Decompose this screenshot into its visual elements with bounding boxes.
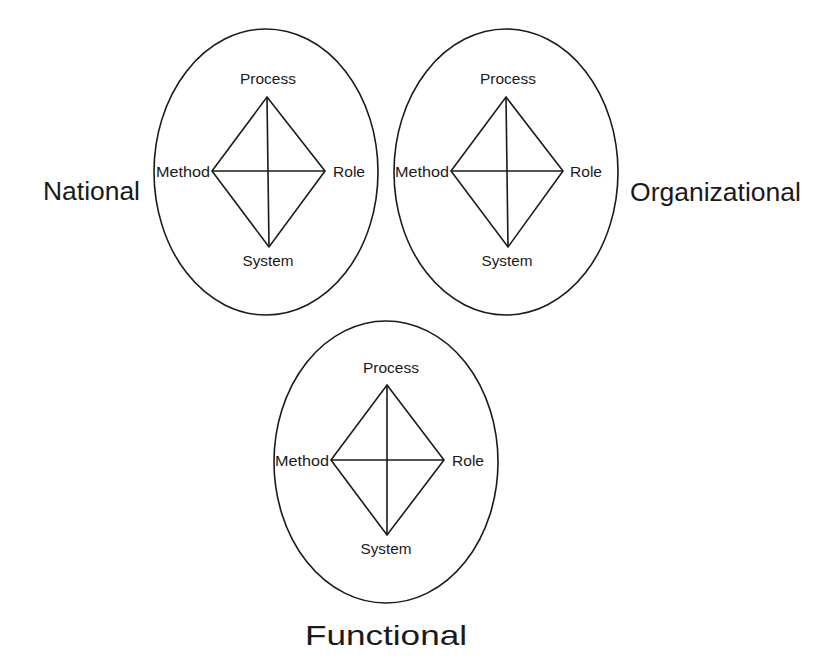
level-label-national: National: [43, 177, 140, 205]
cluster-organizational: Process Method Role System Organizationa…: [394, 29, 801, 315]
node-system: System: [243, 252, 294, 269]
cluster-functional: Process Method Role System Functional: [274, 321, 498, 651]
level-label-organizational: Organizational: [630, 178, 801, 206]
node-process: Process: [363, 359, 419, 376]
node-method: Method: [275, 452, 329, 469]
node-role: Role: [570, 163, 602, 180]
node-method: Method: [156, 163, 210, 180]
node-system: System: [361, 540, 412, 557]
vertical-axis: [267, 97, 269, 247]
node-role: Role: [452, 452, 484, 469]
node-process: Process: [480, 70, 536, 87]
vertical-axis: [506, 97, 508, 247]
node-system: System: [482, 252, 533, 269]
cluster-national: Process Method Role System National: [43, 29, 378, 315]
node-process: Process: [240, 70, 296, 87]
node-role: Role: [333, 163, 365, 180]
level-label-functional: Functional: [305, 620, 467, 651]
node-method: Method: [395, 163, 449, 180]
levels-diagram: Process Method Role System National Proc…: [0, 0, 828, 668]
